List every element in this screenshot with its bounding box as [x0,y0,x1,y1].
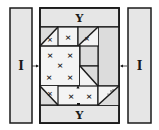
row-3-cell-3-triangle [98,86,119,105]
arrow-right-to-center [120,65,127,68]
svg-text:×: × [65,32,72,42]
row-1-cell-2: × [58,27,78,46]
row-3-cell-1-triangle: × [40,86,58,105]
top-strip-label: Y [75,12,84,25]
svg-text:×: × [47,35,53,44]
right-column-patch [98,27,119,86]
svg-text:×: × [86,91,93,101]
svg-text:×: × [68,91,75,101]
quilt-assembly-diagram: I I Y Y × × [0,0,159,130]
bottom-strip-label: Y [75,109,84,122]
center-square: × × × × × [40,46,80,86]
svg-text:×: × [84,34,90,43]
center-block: Y Y × × × × × × × × [40,8,119,123]
svg-text:×: × [47,89,53,98]
right-strip-label: I [137,59,143,73]
row-1-cell-3-triangle: × [78,27,98,46]
svg-text:×: × [57,60,64,70]
left-strip-label: I [18,59,24,73]
right-strip: I [128,8,151,123]
middle-right-triangle [80,66,98,86]
svg-text:×: × [67,72,74,82]
svg-text:×: × [47,50,54,60]
svg-text:×: × [67,50,74,60]
svg-text:×: × [46,72,53,82]
arrow-left-to-center [32,65,39,68]
row-3-cell-2: × × [58,85,98,105]
left-strip: I [10,8,32,123]
row-1-cell-1-triangle: × [40,27,58,46]
middle-right-patch [80,46,98,66]
